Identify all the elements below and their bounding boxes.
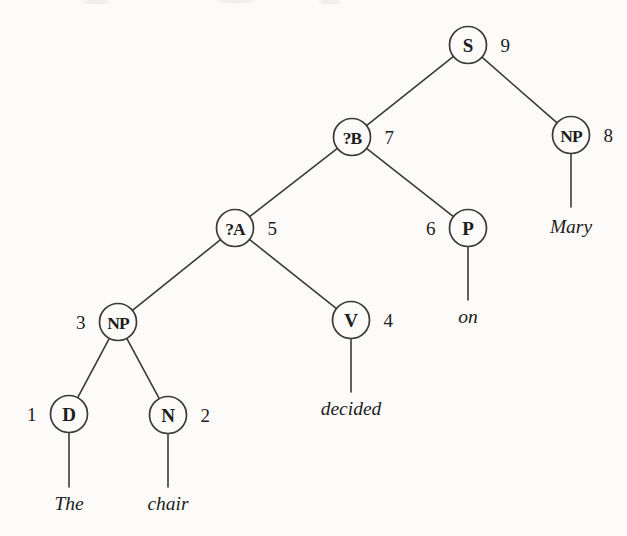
tree-node-qB-7: ?B7 — [334, 119, 395, 156]
tree-node-S-9: S9 — [450, 27, 511, 64]
node-label-1: D — [62, 404, 75, 425]
node-index-8: 8 — [604, 125, 614, 146]
syntax-tree-figure: S9?B7NP8?A5P6NP3V4D1N2 Thechairdecidedon… — [0, 0, 627, 536]
terminal-stems-group — [69, 154, 571, 487]
node-label-6: P — [462, 218, 474, 239]
tree-node-V-4: V4 — [333, 302, 394, 339]
tree-edge-n7-n5 — [250, 148, 338, 216]
tree-node-P-6: P6 — [426, 210, 487, 247]
tree-edge-n5-n3 — [132, 240, 220, 311]
terminal-word-t5: Mary — [549, 216, 593, 237]
tree-edge-n9-n7 — [366, 56, 453, 125]
node-label-7: ?B — [343, 128, 363, 148]
tree-edge-n3-n2 — [127, 338, 159, 398]
terminal-word-t4: on — [458, 306, 478, 327]
tree-edge-n9-n8 — [482, 57, 557, 123]
terminal-word-t1: The — [54, 493, 84, 514]
node-index-7: 7 — [385, 127, 395, 148]
node-label-9: S — [463, 35, 473, 56]
node-index-3: 3 — [76, 312, 86, 333]
tree-nodes-group: S9?B7NP8?A5P6NP3V4D1N2 — [27, 27, 613, 434]
tree-edge-n7-n6 — [367, 148, 454, 216]
node-label-5: ?A — [225, 219, 246, 239]
node-index-4: 4 — [384, 310, 394, 331]
node-label-3: NP — [107, 313, 130, 333]
tree-edge-n5-n4 — [249, 239, 336, 308]
tree-node-qA-5: ?A5 — [217, 210, 278, 247]
node-index-2: 2 — [201, 405, 211, 426]
node-index-6: 6 — [426, 218, 436, 239]
terminal-word-t3: decided — [321, 398, 382, 419]
tree-edge-n3-n1 — [78, 338, 110, 397]
node-index-9: 9 — [501, 35, 511, 56]
node-index-5: 5 — [268, 218, 278, 239]
terminal-word-t2: chair — [147, 493, 189, 514]
terminal-words-group: ThechairdecidedonMary — [54, 216, 592, 514]
tree-node-NP-3: NP3 — [76, 304, 137, 341]
node-index-1: 1 — [27, 404, 37, 425]
node-label-2: N — [161, 405, 175, 426]
node-label-8: NP — [560, 126, 583, 146]
tree-node-N-2: N2 — [150, 397, 211, 434]
parse-tree-canvas: S9?B7NP8?A5P6NP3V4D1N2 Thechairdecidedon… — [0, 0, 627, 536]
node-label-4: V — [344, 310, 358, 331]
tree-node-D-1: D1 — [27, 396, 88, 433]
tree-node-NP-8: NP8 — [553, 117, 614, 154]
